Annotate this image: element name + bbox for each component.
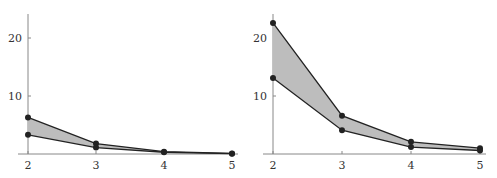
x-tick-label: 2	[25, 159, 32, 172]
data-point	[229, 151, 235, 157]
x-tick-label: 2	[270, 159, 277, 172]
data-point	[477, 148, 483, 154]
x-tick-label: 3	[93, 159, 100, 172]
chart-panel-2: 10202345	[253, 14, 486, 172]
x-tick-label: 5	[477, 159, 484, 172]
data-point	[339, 113, 345, 119]
data-point	[25, 132, 31, 138]
data-point	[270, 75, 276, 81]
data-point	[161, 149, 167, 155]
y-tick-label: 20	[253, 32, 267, 45]
data-point	[93, 145, 99, 151]
data-point	[270, 20, 276, 26]
data-point	[408, 144, 414, 150]
x-tick-label: 4	[161, 159, 168, 172]
x-tick-label: 5	[229, 159, 236, 172]
y-tick-label: 20	[8, 32, 22, 45]
chart-canvas: 1020234510202345	[0, 0, 497, 178]
y-tick-label: 10	[8, 90, 22, 103]
fill-between-area	[273, 23, 480, 151]
x-tick-label: 4	[408, 159, 415, 172]
x-tick-label: 3	[339, 159, 346, 172]
data-point	[339, 127, 345, 133]
chart-panel-1: 10202345	[8, 14, 238, 172]
data-point	[25, 114, 31, 120]
data-point	[408, 139, 414, 145]
y-tick-label: 10	[253, 90, 267, 103]
